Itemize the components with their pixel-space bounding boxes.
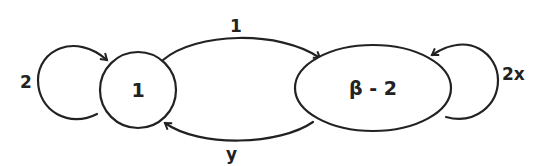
node-beta-2-label: β - 2 (349, 77, 397, 99)
edge-label-self-1: 2 (20, 72, 32, 92)
edge-1-to-2 (163, 38, 320, 60)
node-1-label: 1 (131, 79, 144, 101)
edge-self-loop-1 (38, 46, 107, 119)
edge-label-self-2: 2x (502, 64, 525, 84)
edge-2-to-1 (165, 122, 313, 141)
edge-label-2-to-1: y (226, 144, 237, 164)
state-diagram: 2 1 y 2x 1 β - 2 (0, 0, 555, 166)
edge-label-1-to-2: 1 (230, 16, 242, 36)
